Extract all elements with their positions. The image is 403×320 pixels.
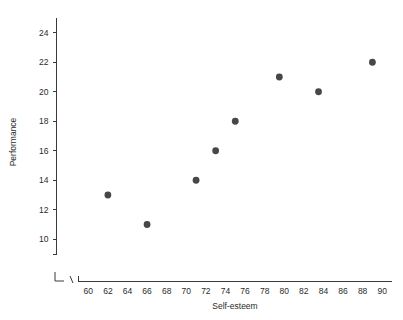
data-point [104,192,111,199]
data-point [232,118,239,125]
x-axis-tick-label: 72 [201,286,211,296]
x-axis-tick-label: 74 [221,286,231,296]
x-axis-tick-label: 86 [338,286,348,296]
data-point [315,88,322,95]
y-axis-tick-label: 24 [39,28,49,38]
x-axis-tick-label: 76 [240,286,250,296]
y-axis-tick-label: 16 [39,146,49,156]
data-point [276,74,283,81]
data-points-group [104,59,375,228]
y-axis-tick-label: 14 [39,175,49,185]
data-point [212,147,219,154]
x-axis-tick-label: 62 [103,286,113,296]
data-point [144,221,151,228]
data-point [369,59,376,66]
x-axis-tick-label: 82 [299,286,309,296]
x-axis-tick-label: 90 [377,286,387,296]
axis-break-symbol [55,272,64,281]
x-axis-tick-label: 84 [319,286,329,296]
x-axis-tick-label: 64 [123,286,133,296]
x-axis-tick-label: 80 [280,286,290,296]
x-axis-tick-label: 70 [182,286,192,296]
y-axis-tick-label: 22 [39,57,49,67]
plot-canvas: 1012141618202224 Performance 60626466687… [0,0,403,320]
y-axis-title: Performance [8,117,18,166]
y-axis-tick-label: 20 [39,87,49,97]
data-point [193,177,200,184]
x-axis-tick-label: 60 [84,286,94,296]
x-axis-tick-label: 68 [162,286,172,296]
y-axis-tick-labels: 1012141618202224 [39,28,49,245]
y-axis-ticks [53,33,57,240]
x-axis-tick-label: 78 [260,286,270,296]
x-axis-group: 60626466687072747678808284868890 Self-es… [79,276,393,311]
x-axis-tick-label: 88 [358,286,368,296]
y-axis-tick-label: 10 [39,234,49,244]
x-axis-tick-labels: 60626466687072747678808284868890 [84,286,388,296]
x-axis-title: Self-esteem [212,301,257,311]
y-axis-group: 1012141618202224 Performance [8,18,57,254]
x-axis-tick-label: 66 [142,286,152,296]
y-axis-tick-label: 18 [39,116,49,126]
y-axis-tick-label: 12 [39,205,49,215]
axis-break-group [55,272,73,283]
axis-break-slash [70,276,73,283]
scatter-plot-figure: 1012141618202224 Performance 60626466687… [0,0,403,320]
